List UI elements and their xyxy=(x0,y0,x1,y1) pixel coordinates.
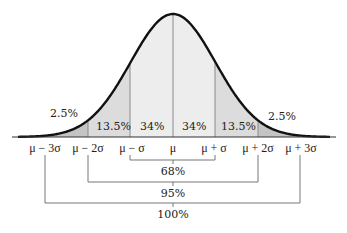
bracket-label-100: 100% xyxy=(157,208,188,221)
bracket-68 xyxy=(130,155,215,164)
region-label-left-tail: 2.5% xyxy=(50,107,78,120)
region-fill xyxy=(130,14,173,137)
tick-label-mu-minus-3sigma: μ − 3σ xyxy=(29,141,61,155)
region-fill xyxy=(173,14,215,137)
bracket-label-95: 95% xyxy=(161,187,185,200)
region-label-right-34: 34% xyxy=(182,120,206,133)
normal-distribution-diagram: 2.5% 13.5% 34% 34% 13.5% 2.5% μ − 3σ μ −… xyxy=(0,0,347,233)
tick-label-mu-plus-2sigma: μ + 2σ xyxy=(242,141,274,155)
region-label-right-tail: 2.5% xyxy=(268,110,296,123)
region-label-left-13: 13.5% xyxy=(96,120,131,133)
region-label-right-13: 13.5% xyxy=(221,120,256,133)
bracket-label-68: 68% xyxy=(161,165,185,178)
region-label-left-34: 34% xyxy=(140,120,164,133)
tick-label-mu: μ xyxy=(170,141,176,155)
tick-label-mu-minus-sigma: μ − σ xyxy=(119,141,145,155)
tick-label-mu-plus-3sigma: μ + 3σ xyxy=(285,141,317,155)
tick-label-mu-plus-sigma: μ + σ xyxy=(201,141,227,155)
tick-label-mu-minus-2sigma: μ − 2σ xyxy=(72,141,104,155)
